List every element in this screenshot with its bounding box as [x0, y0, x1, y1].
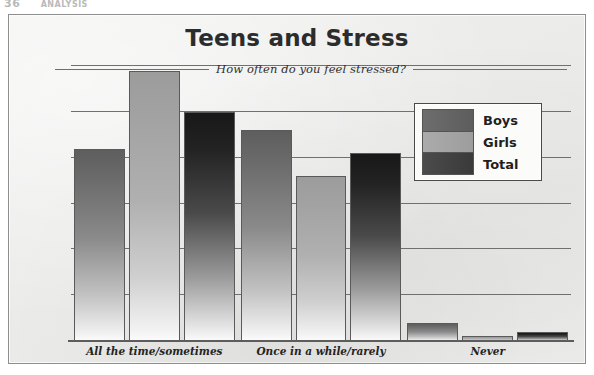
bar [350, 153, 401, 341]
y-axis-tick-label: 10% [0, 289, 9, 302]
page-number: 36 [4, 0, 20, 9]
chart-subtitle: How often do you feel stressed? [216, 62, 406, 76]
bar [184, 112, 235, 341]
y-axis-tick-label: 20% [0, 243, 9, 256]
legend-label: Girls [483, 136, 534, 149]
y-axis-tick-label: 0% [0, 335, 9, 348]
y-axis-tick-label: 60% [0, 60, 9, 73]
chart-frame: Teens and Stress How often do you feel s… [8, 14, 586, 364]
subtitle-rule-left [55, 69, 209, 70]
chart-title: Teens and Stress [9, 25, 585, 51]
bar [296, 176, 347, 341]
scanned-page-header: 36 ANALYSIS [4, 0, 144, 9]
y-axis-tick-label: 40% [0, 151, 9, 164]
bar [129, 71, 180, 341]
subtitle-rule-right [413, 69, 567, 70]
legend-swatch [423, 131, 473, 153]
running-title: ANALYSIS [41, 0, 88, 9]
x-axis-category-label: Once in a while/rarely [238, 345, 405, 357]
x-axis-category-label: All the time/sometimes [71, 345, 238, 357]
legend: BoysGirlsTotal [414, 103, 542, 181]
legend-labels: BoysGirlsTotal [483, 109, 534, 175]
legend-swatch [423, 152, 473, 174]
y-axis-tick-label: 30% [0, 197, 9, 210]
legend-swatch [423, 110, 473, 131]
legend-swatches [422, 109, 474, 175]
legend-label: Boys [483, 114, 534, 127]
bar-group [238, 66, 405, 341]
legend-label: Total [483, 158, 534, 171]
x-axis-labels: All the time/sometimesOnce in a while/ra… [71, 345, 571, 357]
bar-group [71, 66, 238, 341]
chart-subtitle-row: How often do you feel stressed? [55, 62, 567, 76]
bar [241, 130, 292, 341]
y-axis-tick-label: 50% [0, 105, 9, 118]
x-axis-category-label: Never [404, 345, 571, 357]
x-axis-line [68, 340, 574, 342]
bar [407, 323, 458, 341]
bar [74, 149, 125, 342]
